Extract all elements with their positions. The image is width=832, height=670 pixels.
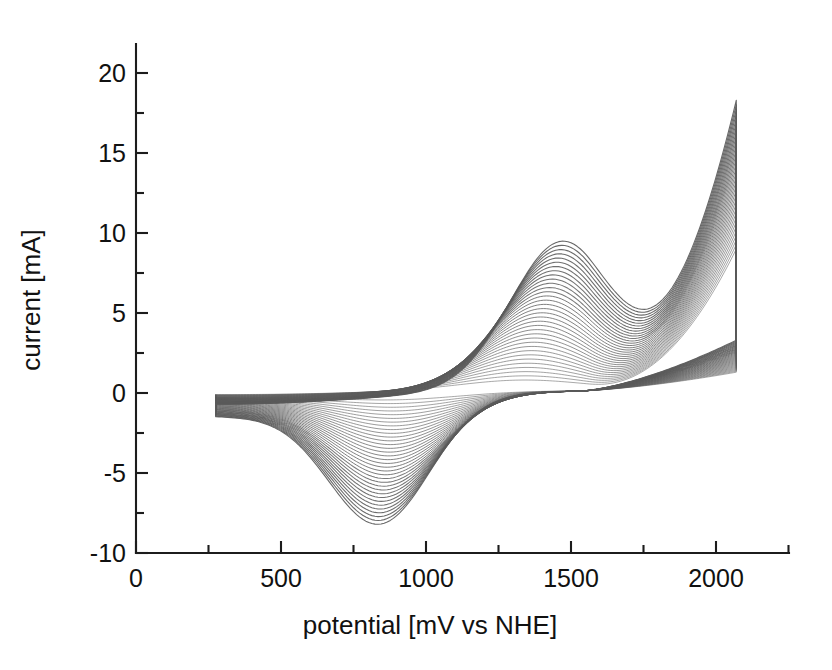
x-axis-title: potential [mV vs NHE] — [303, 610, 557, 640]
x-tick-label: 500 — [260, 564, 302, 592]
y-tick-label: -5 — [104, 459, 126, 487]
cv-plot: 0500100015002000-10-505101520 potential … — [0, 0, 832, 670]
cv-cycle-curve — [216, 172, 737, 463]
cv-curve-group — [216, 100, 737, 524]
y-axis-title: current [mA] — [16, 229, 46, 371]
cv-cycle-curve — [216, 118, 737, 509]
x-tick-label: 2000 — [688, 564, 744, 592]
y-tick-label: 10 — [98, 219, 126, 247]
y-tick-label: 0 — [112, 379, 126, 407]
x-tick-label: 0 — [129, 564, 143, 592]
cv-cycle-curve — [216, 222, 737, 422]
cv-cycle-curve — [216, 177, 737, 460]
cv-figure: 0500100015002000-10-505101520 potential … — [0, 0, 832, 670]
y-tick-label: 5 — [112, 299, 126, 327]
x-tick-label: 1000 — [398, 564, 454, 592]
y-tick-label: 20 — [98, 59, 126, 87]
cv-cycle-curve — [216, 123, 737, 505]
x-tick-label: 1500 — [543, 564, 599, 592]
tick-label-group: 0500100015002000-10-505101520 — [90, 59, 744, 592]
y-tick-label: 15 — [98, 139, 126, 167]
y-tick-label: -10 — [90, 539, 126, 567]
